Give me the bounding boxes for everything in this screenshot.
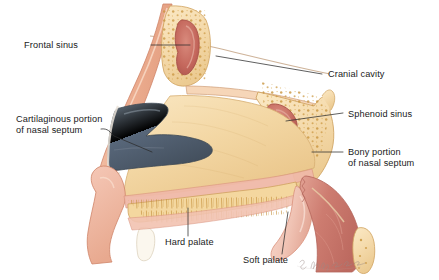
label-cartilaginous-septum-line1: Cartilaginous portion [16,114,102,124]
label-frontal-sinus: Frontal sinus [24,40,78,50]
nasal-cavity-diagram: Frontal sinus Cranial cavity Cartilagino… [0,0,439,280]
label-soft-palate: Soft palate [243,255,288,265]
label-cranial-cavity: Cranial cavity [328,69,385,79]
label-bony-portion-line2: of nasal septum [348,158,415,168]
anatomy-figure: Frontal sinus Cranial cavity Cartilagino… [0,0,439,280]
pterygoid-bone-fragment [353,228,375,274]
label-cartilaginous-septum-line2: of nasal septum [16,125,83,135]
label-hard-palate: Hard palate [165,237,214,247]
label-sphenoid-sinus: Sphenoid sinus [348,109,413,119]
label-bony-portion-line1: Bony portion [348,147,401,157]
